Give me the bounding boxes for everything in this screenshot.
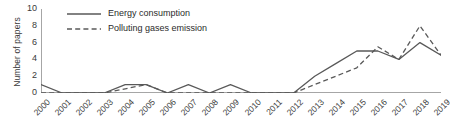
legend-label-energy-consumption: Energy consumption — [108, 9, 190, 18]
chart-legend: Energy consumption Polluting gases emiss… — [66, 7, 326, 37]
y-tick-2: 2 — [19, 71, 37, 80]
y-tick-4: 4 — [19, 54, 37, 63]
y-tick-0: 0 — [19, 88, 37, 97]
y-tick-8: 8 — [19, 21, 37, 30]
y-tick-10: 10 — [19, 4, 37, 13]
series-line-energy-consumption — [41, 43, 441, 93]
solid-line-icon — [66, 9, 102, 19]
legend-label-polluting-gases-emission: Polluting gases emission — [108, 24, 207, 33]
x-axis-tick-labels: 2000200120022003200420052006200720082009… — [41, 93, 441, 133]
y-tick-6: 6 — [19, 38, 37, 47]
legend-item-energy-consumption: Energy consumption — [66, 7, 326, 20]
legend-item-polluting-gases-emission: Polluting gases emission — [66, 22, 326, 35]
dashed-line-icon — [66, 24, 102, 34]
